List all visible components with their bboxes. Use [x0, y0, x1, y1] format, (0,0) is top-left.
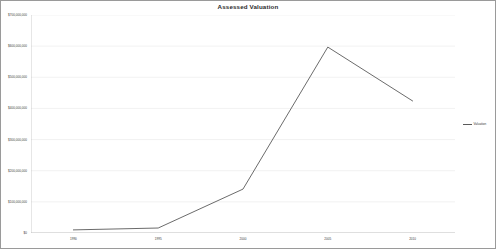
plot-area	[31, 15, 455, 233]
x-axis-tick-label: 2005	[308, 237, 348, 242]
data-series-line	[73, 47, 412, 230]
y-axis-tick-label: $100,000,000	[0, 200, 27, 204]
x-axis-tick-label: 2000	[223, 237, 263, 242]
gridlines	[31, 15, 455, 233]
x-axis-tick-label: 2010	[393, 237, 433, 242]
chart-legend: Valuation	[463, 122, 486, 126]
chart-title: Assessed Valuation	[1, 3, 495, 11]
legend-label: Valuation	[474, 122, 487, 126]
legend-line-swatch	[463, 124, 472, 125]
y-axis-tick-label: $700,000,000	[0, 13, 27, 17]
y-axis-tick-label: $600,000,000	[0, 44, 27, 48]
y-axis-tick-label: $400,000,000	[0, 106, 27, 110]
y-axis-tick-label: $200,000,000	[0, 169, 27, 173]
y-axis-tick-label: $300,000,000	[0, 138, 27, 142]
axis-lines	[31, 15, 455, 233]
chart-container: Assessed Valuation $700,000,000$600,000,…	[0, 0, 496, 249]
x-axis-tick-label: 1990	[53, 237, 93, 242]
y-axis-tick-label: $500,000,000	[0, 75, 27, 79]
x-axis-tick-label: 1995	[138, 237, 178, 242]
y-axis-tick-label: $0	[0, 231, 27, 235]
plot-svg	[31, 15, 455, 233]
